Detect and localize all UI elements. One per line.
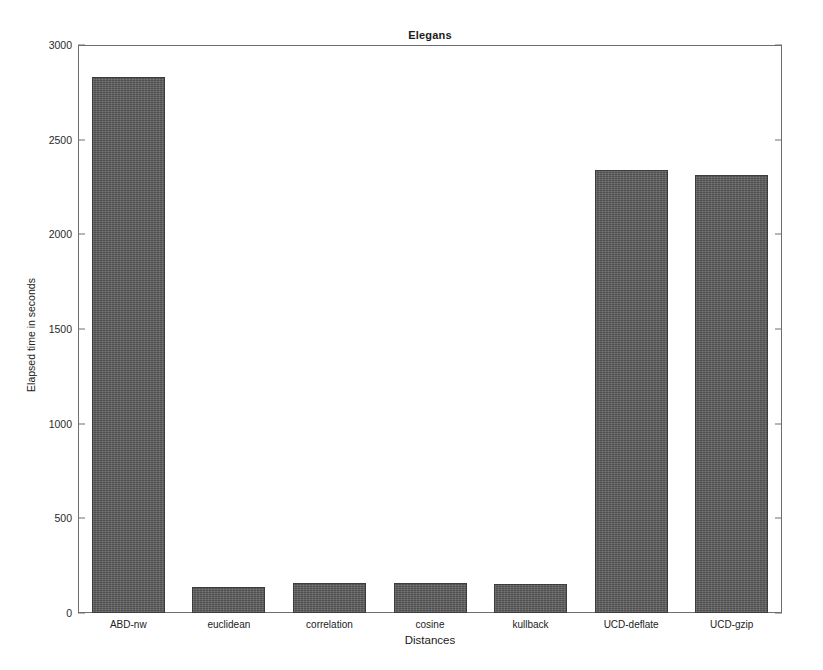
- y-tick-mark-right: [775, 45, 782, 46]
- y-tick-label: 1000: [28, 418, 72, 430]
- plot-area: [78, 45, 782, 613]
- x-tick-label: euclidean: [207, 619, 250, 630]
- y-tick-mark-right: [775, 139, 782, 140]
- y-tick-mark-right: [775, 423, 782, 424]
- y-tick-label: 3000: [28, 39, 72, 51]
- y-tick-mark: [78, 423, 85, 424]
- y-tick-mark-right: [775, 518, 782, 519]
- x-axis-label: Distances: [78, 634, 782, 646]
- chart-title: Elegans: [78, 29, 782, 41]
- x-tick-label: UCD-deflate: [604, 619, 659, 630]
- y-tick-mark-right: [775, 234, 782, 235]
- y-tick-label: 500: [28, 512, 72, 524]
- x-tick-label: kullback: [512, 619, 548, 630]
- y-tick-mark: [78, 139, 85, 140]
- y-tick-mark: [78, 45, 85, 46]
- y-tick-mark: [78, 234, 85, 235]
- y-tick-mark-right: [775, 329, 782, 330]
- x-tick-label: UCD-gzip: [710, 619, 753, 630]
- y-tick-mark: [78, 329, 85, 330]
- y-tick-label: 2000: [28, 228, 72, 240]
- y-tick-label: 2500: [28, 134, 72, 146]
- figure: Elegans Elapsed time in seconds 05001000…: [0, 0, 823, 670]
- x-tick-label: cosine: [416, 619, 445, 630]
- x-tick-label: ABD-nw: [110, 619, 147, 630]
- x-tick-label: correlation: [306, 619, 353, 630]
- y-tick-mark-right: [775, 613, 782, 614]
- y-tick-mark: [78, 518, 85, 519]
- y-tick-mark: [78, 613, 85, 614]
- y-axis-tick-labels: 050010001500200025003000: [22, 45, 72, 613]
- y-tick-label: 1500: [28, 323, 72, 335]
- y-tick-label: 0: [28, 607, 72, 619]
